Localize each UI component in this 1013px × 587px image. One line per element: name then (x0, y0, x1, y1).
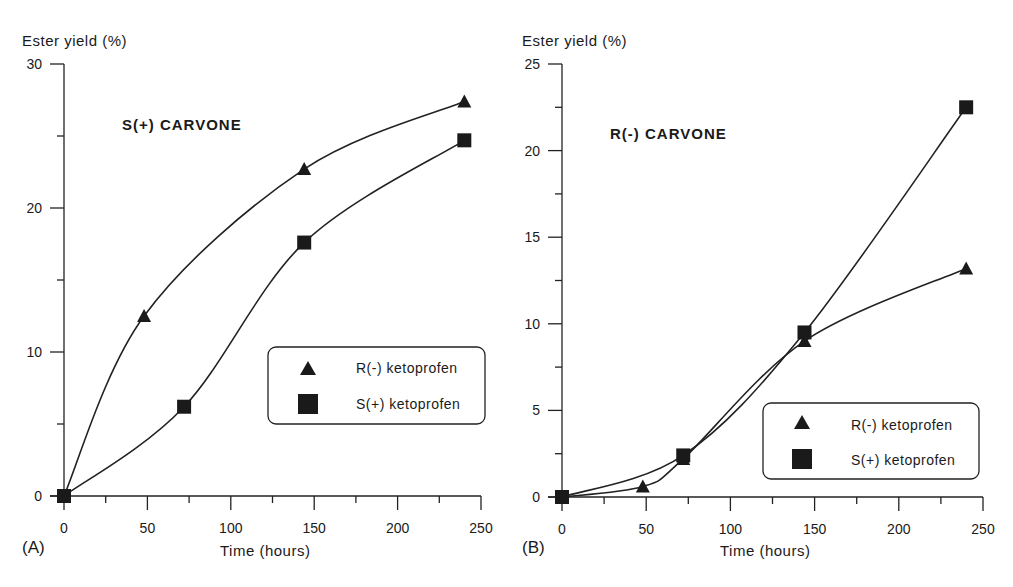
series-curve (64, 140, 464, 496)
triangle-marker-icon (457, 94, 471, 107)
legend-label-r-ketoprofen: R(-) ketoprofen (851, 417, 953, 433)
panel-a-curves (64, 101, 464, 496)
square-marker-icon (792, 449, 812, 469)
panel-a-legend: R(-) ketoprofen S(+) ketoprofen (268, 347, 485, 424)
y-tick-label: 25 (524, 56, 540, 72)
panel-b-title: R(-) CARVONE (610, 125, 727, 142)
panel-a-title: S(+) CARVONE (122, 116, 242, 133)
x-tick-label: 150 (803, 521, 827, 537)
x-tick-label: 150 (303, 520, 327, 536)
legend-label-r-ketoprofen: R(-) ketoprofen (356, 360, 458, 376)
y-tick-label: 0 (532, 489, 540, 505)
x-tick-label: 50 (638, 521, 654, 537)
square-marker-icon (676, 448, 690, 462)
triangle-marker-icon (959, 261, 973, 274)
y-tick-label: 20 (26, 200, 42, 216)
y-tick-label: 30 (26, 56, 42, 72)
square-marker-icon (297, 236, 311, 250)
square-marker-icon (797, 325, 811, 339)
y-tick-label: 0 (34, 488, 42, 504)
panel-b-xlabel: Time (hours) (720, 542, 810, 559)
x-tick-label: 100 (219, 520, 243, 536)
panel-a-ylabel: Ester yield (%) (22, 32, 127, 49)
square-marker-icon (57, 489, 71, 503)
x-tick-label: 100 (719, 521, 743, 537)
square-marker-icon (298, 394, 318, 414)
triangle-marker-icon (137, 309, 151, 322)
panel-b-letter: (B) (522, 538, 545, 557)
y-tick-label: 10 (524, 316, 540, 332)
legend-label-s-ketoprofen: S(+) ketoprofen (851, 452, 955, 468)
triangle-marker-icon (297, 162, 311, 175)
square-marker-icon (959, 100, 973, 114)
square-marker-icon (457, 133, 471, 147)
x-tick-label: 250 (971, 521, 995, 537)
panel-a-markers (57, 94, 471, 503)
legend-label-s-ketoprofen: S(+) ketoprofen (356, 396, 460, 412)
x-tick-label: 0 (60, 520, 68, 536)
y-tick-label: 20 (524, 143, 540, 159)
y-tick-label: 15 (524, 229, 540, 245)
panel-a-axes: 0102030050100150200250 (26, 56, 492, 536)
panel-a-letter: (A) (22, 538, 45, 557)
x-tick-label: 0 (558, 521, 566, 537)
figure-canvas: Ester yield (%) S(+) CARVONE 01020300501… (0, 0, 1013, 587)
x-tick-label: 200 (887, 521, 911, 537)
series-curve (64, 101, 464, 496)
panel-b: Ester yield (%) R(-) CARVONE 05101520250… (522, 32, 995, 559)
panel-a: Ester yield (%) S(+) CARVONE 01020300501… (22, 32, 493, 559)
y-tick-label: 10 (26, 344, 42, 360)
panel-b-ylabel: Ester yield (%) (522, 32, 627, 49)
x-tick-label: 200 (386, 520, 410, 536)
panel-b-legend: R(-) ketoprofen S(+) ketoprofen (763, 403, 979, 479)
triangle-marker-icon (636, 480, 650, 493)
square-marker-icon (177, 400, 191, 414)
square-marker-icon (555, 490, 569, 504)
x-tick-label: 50 (140, 520, 156, 536)
panel-a-xlabel: Time (hours) (220, 542, 310, 559)
x-tick-label: 250 (469, 520, 493, 536)
y-tick-label: 5 (532, 402, 540, 418)
